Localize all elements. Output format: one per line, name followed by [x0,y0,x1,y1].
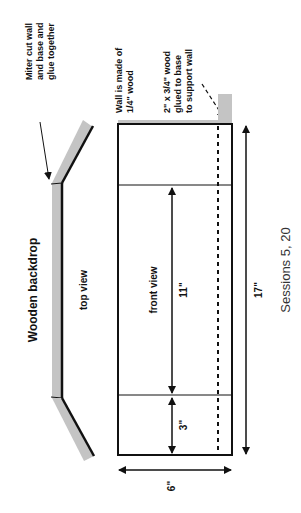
front-view-shape [118,94,232,455]
dimension-17-label: 17" [253,282,264,298]
svg-text:2" x 3/4" wood: 2" x 3/4" wood [162,51,172,113]
support-note: 2" x 3/4" wood glued to base to support … [162,49,224,118]
svg-text:to support wall: to support wall [184,49,194,113]
svg-text:glued to base: glued to base [173,55,183,113]
svg-text:1/4" wood: 1/4" wood [125,70,135,113]
svg-text:glue together: glue together [46,23,56,80]
wooden-backdrop-diagram: Wooden backdrop top view Miter cut wall … [0,0,301,513]
svg-text:and base and: and base and [35,22,45,80]
dimension-3-label: 3" [178,420,189,431]
wall-note: Wall is made of 1/4" wood [114,47,135,113]
svg-text:Wall is made of: Wall is made of [114,47,124,113]
top-view-label: top view [78,270,89,310]
dimension-11-label: 11" [178,282,189,298]
sessions-footer: Sessions 5, 20 [278,227,293,312]
miter-annotation: Miter cut wall and base and glue togethe… [24,22,56,179]
dimension-6-label: 6" [166,481,177,492]
svg-text:Miter cut wall: Miter cut wall [24,23,34,80]
front-view-label: front view [148,266,159,313]
diagram-title: Wooden backdrop [26,238,40,342]
